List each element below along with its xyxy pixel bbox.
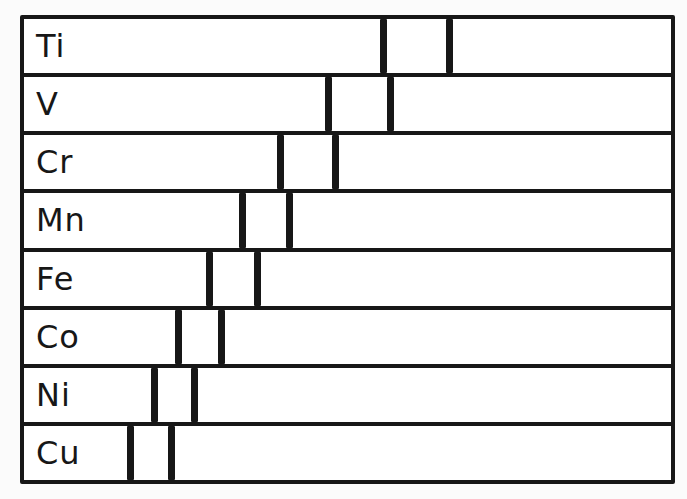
spectral-line-bar-right — [286, 193, 293, 247]
element-row-ni: Ni — [24, 368, 671, 426]
element-row-v: V — [24, 77, 671, 135]
element-row-cr: Cr — [24, 135, 671, 193]
element-label-cu: Cu — [24, 437, 81, 469]
element-label-ti: Ti — [24, 30, 65, 62]
spectral-line-bar-left — [206, 252, 213, 306]
element-row-cu: Cu — [24, 426, 671, 480]
spectral-line-bar-left — [175, 310, 182, 364]
element-row-co: Co — [24, 310, 671, 368]
element-row-fe: Fe — [24, 252, 671, 310]
spectral-line-bar-right — [446, 19, 453, 73]
element-row-ti: Ti — [24, 19, 671, 77]
spectral-line-bar-right — [332, 135, 339, 189]
spectral-line-bar-right — [191, 368, 198, 422]
element-row-mn: Mn — [24, 193, 671, 251]
element-label-fe: Fe — [24, 263, 74, 295]
element-label-cr: Cr — [24, 146, 74, 178]
element-label-ni: Ni — [24, 379, 71, 411]
spectral-line-bar-right — [168, 426, 175, 480]
spectral-line-bar-left — [239, 193, 246, 247]
spectral-line-bar-left — [127, 426, 134, 480]
element-label-co: Co — [24, 321, 80, 353]
spectral-line-bar-left — [277, 135, 284, 189]
spectral-lines-diagram-frame: Ti V Cr Mn Fe Co — [20, 15, 675, 484]
element-label-mn: Mn — [24, 204, 86, 236]
figure-canvas: Ti V Cr Mn Fe Co — [0, 0, 687, 499]
spectral-line-bar-left — [325, 77, 332, 131]
spectral-line-bar-right — [387, 77, 394, 131]
spectral-line-bar-left — [151, 368, 158, 422]
spectral-line-bar-left — [380, 19, 387, 73]
spectral-line-bar-right — [218, 310, 225, 364]
element-label-v: V — [24, 88, 59, 120]
spectral-line-bar-right — [254, 252, 261, 306]
